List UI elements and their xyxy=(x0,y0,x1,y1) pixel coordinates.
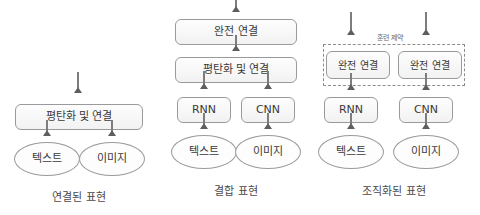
node-coordinated-fully-connected-left: 완전 연결 xyxy=(326,51,390,79)
node-combined-fusion: 평탄화 및 연결 xyxy=(175,57,297,83)
node-coordinated-text-input: 텍스트 xyxy=(318,135,384,169)
node-joint-fusion: 평탄화 및 연결 xyxy=(15,104,143,130)
caption-joint: 연결된 표현 xyxy=(15,188,143,204)
node-coordinated-image-input: 이미지 xyxy=(393,135,459,169)
node-joint-text-input: 텍스트 xyxy=(14,142,80,176)
caption-combined: 결합 표현 xyxy=(175,182,297,198)
node-coordinated-fully-connected-right: 완전 연결 xyxy=(398,51,462,79)
label-training-constraint: 훈련 제약 xyxy=(360,32,420,42)
diagram-canvas: 평탄화 및 연결 텍스트 이미지 연결된 표현 완전 연결 평탄화 및 연결 R… xyxy=(0,0,480,215)
caption-coordinated: 조직화된 표현 xyxy=(323,182,465,198)
node-combined-image-input: 이미지 xyxy=(235,135,301,169)
node-joint-image-input: 이미지 xyxy=(79,142,145,176)
node-combined-text-input: 텍스트 xyxy=(171,135,237,169)
